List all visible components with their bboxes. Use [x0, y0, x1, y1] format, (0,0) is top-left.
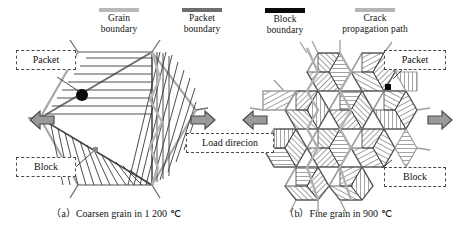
grain-cell — [351, 129, 395, 167]
grain-cell — [263, 91, 296, 110]
load-arrow-outer-right — [428, 111, 452, 129]
grain-cell — [395, 72, 417, 91]
caption-panel-b: （b）Fine grain in 900 ℃ — [268, 205, 408, 220]
crack-initiation-marker-b — [385, 84, 391, 90]
packet-right-a — [128, 52, 196, 185]
tag-packet-a: Packet — [16, 50, 76, 70]
figure-root: Grain boundary Packet boundary Block bou… — [0, 0, 458, 233]
tag-packet-b: Packet — [384, 50, 446, 70]
grain-cell — [329, 167, 373, 200]
grain-cell — [285, 167, 329, 200]
tag-block-a: Block — [16, 157, 76, 177]
tag-load-direction: Load direcion — [186, 133, 274, 153]
block-marker-a — [93, 147, 98, 152]
tag-block-b: Block — [384, 167, 446, 187]
grain-cell — [395, 129, 417, 167]
grain-cell — [373, 91, 417, 129]
load-arrow-inner-right — [243, 111, 267, 129]
caption-panel-a: （a）Coarsen grain in 1 200 ℃ — [38, 205, 194, 220]
diagram-canvas — [0, 0, 458, 233]
